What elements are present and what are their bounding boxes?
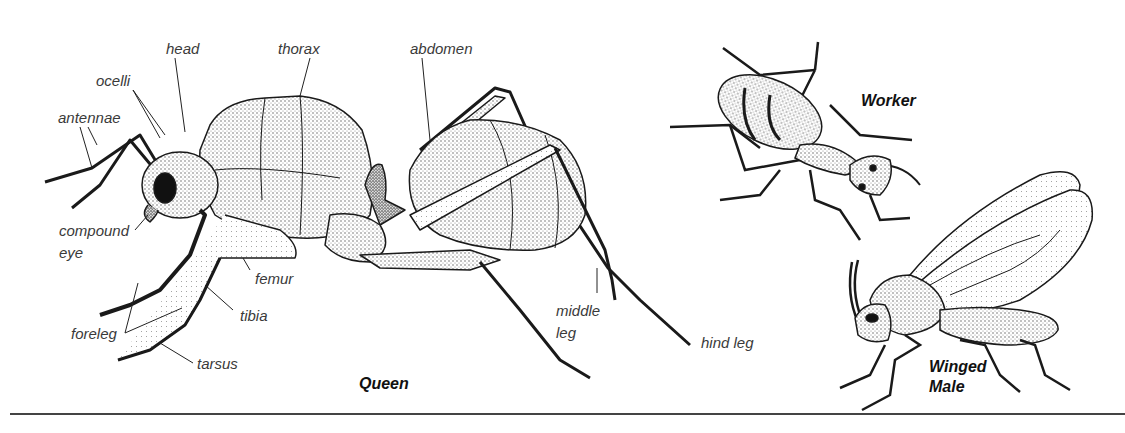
queen-petiole (365, 164, 405, 225)
label-foreleg: foreleg (71, 325, 117, 342)
queen-compound-eye (154, 173, 176, 203)
worker-thorax (795, 144, 856, 175)
queen-antenna-1 (45, 135, 160, 182)
label-femur: femur (255, 270, 293, 287)
label-tarsus: tarsus (197, 355, 238, 372)
label-tibia: tibia (240, 307, 268, 324)
queen-antenna-2 (72, 140, 155, 208)
bottom-divider-rule (10, 413, 1125, 415)
label-abdomen: abdomen (410, 40, 473, 57)
title-winged-male-line2: Male (929, 378, 965, 396)
label-compound-eye-line1: compound (59, 222, 129, 239)
label-thorax: thorax (278, 40, 320, 57)
worker-ant-drawing (670, 42, 920, 240)
title-winged-male-line1: Winged (929, 358, 987, 376)
label-hind-leg: hind leg (701, 334, 754, 351)
label-antennae: antennae (58, 109, 121, 126)
worker-head (850, 156, 891, 195)
label-middle-leg-line1: middle (556, 302, 600, 319)
male-gaster (940, 308, 1058, 346)
label-compound-eye-line2: eye (59, 244, 83, 261)
title-queen: Queen (359, 375, 409, 393)
male-head (855, 304, 891, 342)
ant-anatomy-figure: head thorax abdomen ocelli antennae comp… (0, 0, 1125, 433)
label-ocelli: ocelli (96, 72, 130, 89)
queen-ant-drawing (45, 88, 690, 378)
label-head: head (166, 40, 199, 57)
title-worker: Worker (861, 92, 916, 110)
label-middle-leg-line2: leg (556, 324, 576, 341)
